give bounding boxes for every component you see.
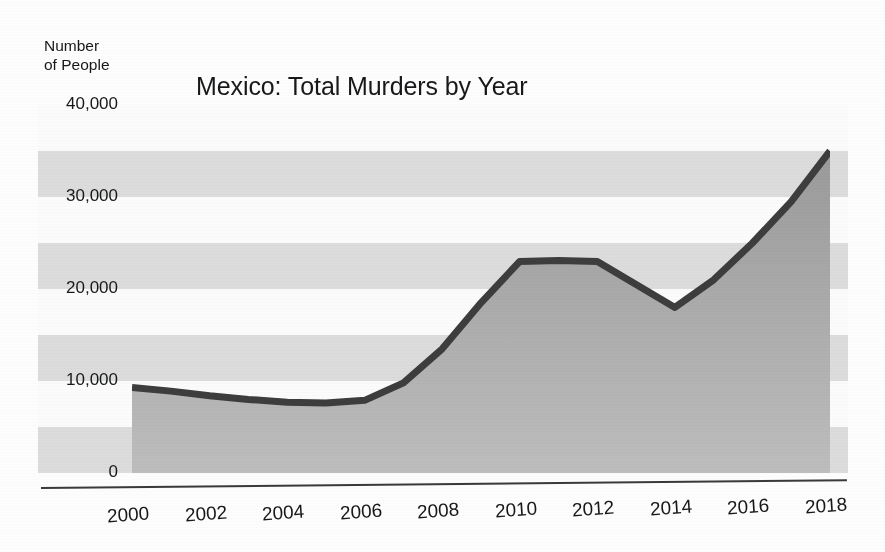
chart-figure: Number of People 40,00030,00020,00010,00… [0, 0, 885, 552]
x-axis-tick: 2016 [727, 495, 771, 520]
x-axis-tick: 2014 [649, 496, 693, 521]
x-axis-tick: 2008 [417, 499, 461, 524]
x-axis-tick: 2006 [339, 500, 383, 525]
y-axis-tick: 10,000 [26, 370, 118, 390]
area-fill [132, 151, 830, 473]
x-axis-tick: 2004 [261, 501, 305, 526]
x-axis-tick: 2018 [804, 494, 848, 519]
x-axis-tick: 2000 [106, 503, 150, 528]
plot-area [132, 105, 830, 473]
y-axis-tick: 30,000 [26, 186, 118, 206]
y-axis-tick: 20,000 [26, 278, 118, 298]
x-axis-tick: 2012 [572, 497, 616, 522]
x-axis-line [41, 479, 847, 489]
x-axis-tick: 2010 [494, 498, 538, 523]
y-axis-tick: 0 [26, 462, 118, 482]
x-axis-tick: 2002 [184, 502, 228, 527]
y-axis-tick: 40,000 [26, 94, 118, 114]
series-line-chart [132, 105, 830, 473]
y-axis-title: Number of People [44, 36, 110, 74]
chart-title: Mexico: Total Murders by Year [196, 72, 528, 101]
